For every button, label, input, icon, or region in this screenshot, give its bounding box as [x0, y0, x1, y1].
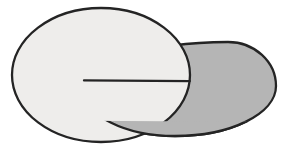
figure-canvas [0, 0, 289, 148]
notch-chord-line [84, 80, 190, 81]
figure-frame [0, 0, 289, 148]
